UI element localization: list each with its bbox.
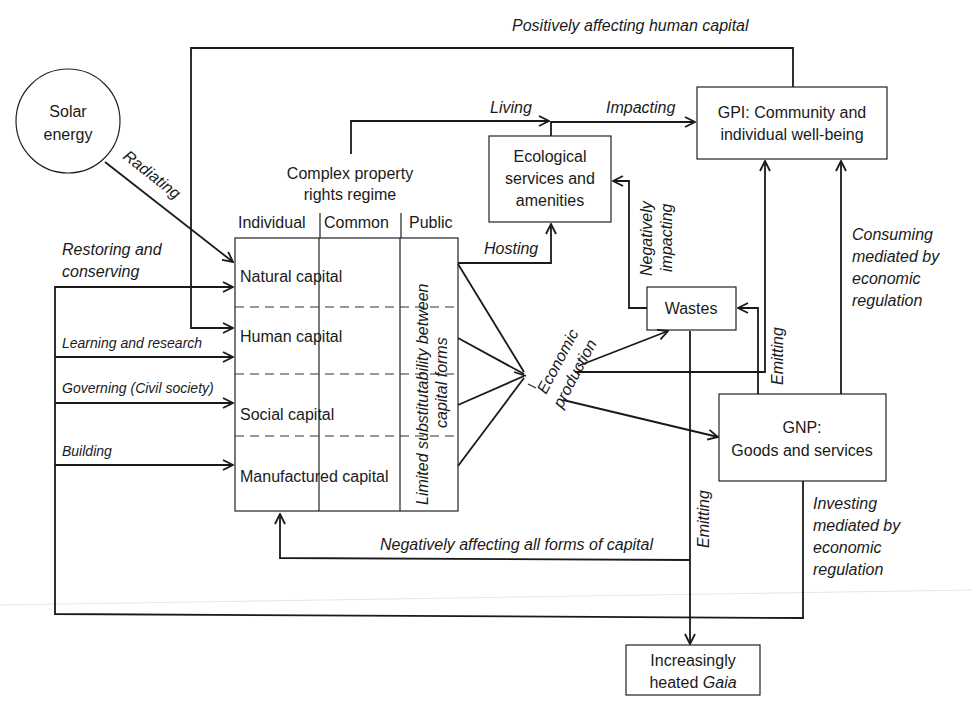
production-to-gnp-arrow: [563, 400, 718, 437]
ecological-label-1: Ecological: [514, 148, 587, 165]
gaia-label-2-plain: heated: [649, 674, 702, 691]
column-public: Public: [409, 214, 453, 231]
column-common: Common: [324, 214, 389, 231]
gaia-node: Increasingly heated Gaia: [626, 645, 760, 695]
investing-label-2: mediated by: [813, 517, 901, 534]
human-capital: Human capital: [240, 328, 342, 345]
gpi-label-2: individual well-being: [720, 126, 863, 143]
restoring-label-1: Restoring and: [62, 241, 163, 258]
gaia-label-1: Increasingly: [650, 652, 735, 669]
gpi-label-1: GPI: Community and: [718, 104, 867, 121]
property-regime-label-1: Complex property: [287, 165, 413, 182]
positively-affecting-label: Positively affecting human capital: [512, 17, 749, 34]
gnp-emitting-arrow: [738, 308, 758, 394]
consuming-label-4: regulation: [852, 292, 922, 309]
emitting-gnp-label: Emitting: [769, 327, 786, 385]
impacting-label: Impacting: [606, 99, 675, 116]
property-regime-label-2: rights regime: [304, 186, 397, 203]
gnp-node: GNP: Goods and services: [719, 394, 886, 481]
negatively-impacting-label-2: impacting: [658, 203, 675, 272]
governing-label: Governing (Civil society): [62, 380, 214, 396]
gnp-label-2: Goods and services: [731, 442, 872, 459]
gnp-label-1: GNP:: [782, 419, 821, 436]
diagram-canvas: Solar energy Radiating Positively affect…: [0, 0, 972, 710]
manufactured-capital: Manufactured capital: [240, 468, 389, 485]
building-label: Building: [62, 443, 112, 459]
investing-label-3: economic: [813, 539, 881, 556]
natural-capital: Natural capital: [240, 268, 342, 285]
gpi-node: GPI: Community and individual well-being: [697, 87, 887, 159]
gaia-label-2: heated Gaia: [649, 674, 736, 691]
consuming-label-2: mediated by: [852, 248, 940, 265]
scan-artifact-line: [0, 590, 972, 605]
emitting-gaia-label: Emitting: [695, 490, 712, 548]
investing-label-1: Investing: [813, 495, 877, 512]
ecological-label-2: services and: [505, 170, 595, 187]
gaia-label-2-italic: Gaia: [703, 674, 737, 691]
solar-label-1: Solar: [49, 103, 87, 120]
restoring-label-2: conserving: [62, 263, 139, 280]
radiating-label: Radiating: [120, 147, 184, 202]
solar-label-2: energy: [44, 126, 93, 143]
capital-table: Natural capital Human capital Social cap…: [235, 238, 458, 511]
social-capital: Social capital: [240, 406, 334, 423]
negatively-impacting-label-1: Negatively: [638, 200, 655, 276]
impacting-arrow: [551, 122, 695, 136]
living-label: Living: [490, 99, 532, 116]
solar-energy-node: Solar energy: [16, 69, 120, 173]
investing-label-4: regulation: [813, 561, 883, 578]
wastes-node: Wastes: [647, 287, 736, 330]
ecological-services-node: Ecological services and amenities: [489, 136, 611, 222]
column-individual: Individual: [238, 214, 306, 231]
production-inputs: [458, 264, 526, 466]
substitutability-label-2: capital forms: [433, 337, 450, 428]
consuming-label-3: economic: [852, 270, 920, 287]
wastes-label: Wastes: [665, 300, 718, 317]
substitutability-label-1: Limited substitutability between: [414, 283, 431, 505]
ecological-label-3: amenities: [516, 192, 584, 209]
hosting-label: Hosting: [484, 240, 538, 257]
learning-label: Learning and research: [62, 335, 202, 351]
negatively-affecting-label: Negatively affecting all forms of capita…: [380, 536, 653, 553]
consuming-label-1: Consuming: [852, 226, 933, 243]
